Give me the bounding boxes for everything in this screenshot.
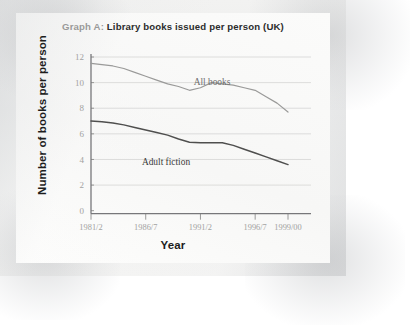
x-axis-tick-label: 1986/7 <box>134 223 157 232</box>
x-axis-tick-label: 1991/2 <box>189 223 212 232</box>
series-label-all-books: All books <box>194 77 231 87</box>
series-label-adult-fiction: Adult fiction <box>142 157 190 167</box>
y-axis-tick-label: 0 <box>80 206 85 216</box>
series-label-group: All booksAdult fiction <box>142 77 231 167</box>
x-axis-tick-group: 1981/21986/71991/21996/71999/00 <box>79 214 301 232</box>
y-axis-tick-label: 4 <box>80 155 85 165</box>
y-axis-tick-label: 2 <box>80 180 85 190</box>
chart-plot: 024681012 1981/21986/71991/21996/71999/0… <box>16 13 330 263</box>
y-axis-tick-label: 6 <box>80 129 85 139</box>
series-line-all-books <box>91 63 288 112</box>
x-axis-tick-label: 1981/2 <box>79 223 102 232</box>
y-axis-tick-label: 10 <box>75 78 85 88</box>
x-axis-tick-label: 1996/7 <box>244 223 267 232</box>
series-paths-group <box>91 63 288 164</box>
y-axis-tick-label: 12 <box>75 52 84 62</box>
x-axis-tick-label: 1999/00 <box>274 223 301 232</box>
y-axis-tick-label: 8 <box>80 103 85 113</box>
figure-card: Graph A: Library books issued per person… <box>16 13 330 263</box>
